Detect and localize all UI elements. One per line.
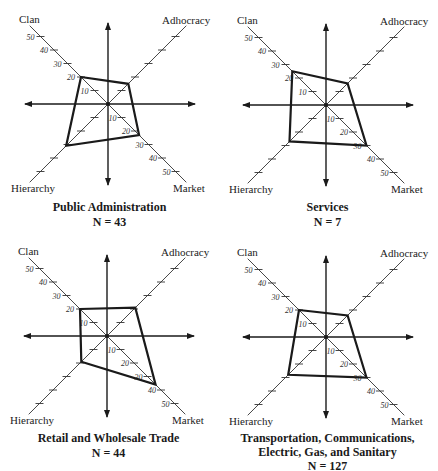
svg-text:40: 40	[258, 47, 266, 56]
svg-text:30: 30	[271, 293, 280, 302]
chart-title: Public Administration	[0, 200, 219, 214]
svg-text:30: 30	[135, 141, 144, 150]
axis-hierarchy	[248, 105, 326, 183]
svg-text:50: 50	[245, 266, 253, 275]
origin-dot	[105, 334, 109, 338]
chart-title-line-1: Transportation, Communications,	[218, 431, 437, 445]
chart-sample-size: N = 43	[0, 215, 219, 229]
svg-text:40: 40	[367, 155, 375, 164]
axis-clan	[30, 26, 108, 104]
svg-text:40: 40	[148, 386, 156, 395]
svg-text:20: 20	[122, 127, 130, 136]
axis-market	[108, 104, 186, 182]
axis-label-adhocracy: Adhocracy	[162, 15, 210, 26]
svg-text:20: 20	[285, 306, 293, 315]
axis-hierarchy	[29, 336, 107, 414]
chart-public-administration: 10102020303040405050 Clan Adhocracy Hier…	[0, 0, 219, 238]
origin-dot	[324, 335, 328, 339]
origin-dot	[106, 102, 110, 106]
svg-text:50: 50	[381, 401, 389, 410]
axis-label-market: Market	[173, 183, 205, 194]
axis-adhocracy	[326, 259, 404, 337]
axis-label-market: Market	[391, 416, 423, 427]
axis-hierarchy	[30, 104, 108, 182]
svg-text:50: 50	[163, 168, 171, 177]
svg-text:10: 10	[81, 87, 89, 96]
axis-label-hierarchy: Hierarchy	[10, 415, 54, 426]
svg-text:40: 40	[149, 154, 157, 163]
axis-label-adhocracy: Adhocracy	[380, 248, 428, 259]
svg-text:30: 30	[52, 292, 61, 301]
svg-text:10: 10	[327, 115, 335, 124]
svg-text:10: 10	[108, 346, 116, 355]
axis-label-hierarchy: Hierarchy	[11, 183, 55, 194]
chart-sample-size: N = 44	[0, 446, 218, 460]
chart-sample-size: N = 127	[218, 459, 437, 471]
axis-label-hierarchy: Hierarchy	[229, 184, 273, 195]
chart-transportation-communications-utilities: 10102020303040405050 Clan Adhocracy Hier…	[218, 233, 437, 471]
chart-retail-wholesale-trade: 10102020303040405050 Clan Adhocracy Hier…	[0, 232, 218, 470]
svg-text:20: 20	[340, 360, 348, 369]
svg-text:50: 50	[245, 34, 253, 43]
axis-label-clan: Clan	[19, 14, 40, 25]
svg-text:20: 20	[66, 305, 74, 314]
svg-text:50: 50	[381, 169, 389, 178]
chart-sample-size: N = 7	[218, 215, 437, 229]
svg-text:10: 10	[327, 347, 335, 356]
svg-text:40: 40	[367, 387, 375, 396]
svg-text:40: 40	[39, 278, 47, 287]
svg-text:40: 40	[258, 279, 266, 288]
axis-adhocracy	[107, 258, 185, 336]
axis-label-adhocracy: Adhocracy	[380, 16, 428, 27]
svg-text:20: 20	[121, 359, 129, 368]
axis-adhocracy	[108, 26, 186, 104]
chart-title: Retail and Wholesale Trade	[0, 431, 218, 445]
svg-text:10: 10	[299, 320, 307, 329]
svg-text:50: 50	[27, 33, 35, 42]
axis-label-market: Market	[172, 415, 204, 426]
svg-text:50: 50	[162, 400, 170, 409]
svg-text:30: 30	[271, 61, 280, 70]
chart-title-line-2: Electric, Gas, and Sanitary	[218, 445, 437, 459]
svg-text:40: 40	[40, 46, 48, 55]
svg-text:20: 20	[340, 128, 348, 137]
chart-title: Services	[218, 200, 437, 214]
axis-adhocracy	[326, 27, 404, 105]
svg-text:10: 10	[299, 88, 307, 97]
svg-text:50: 50	[26, 265, 34, 274]
axis-label-adhocracy: Adhocracy	[161, 247, 209, 258]
chart-services: 10102020303040405050 Clan Adhocracy Hier…	[218, 1, 437, 239]
svg-text:10: 10	[109, 114, 117, 123]
axis-label-hierarchy: Hierarchy	[229, 416, 273, 427]
axis-label-clan: Clan	[237, 247, 258, 258]
axis-label-clan: Clan	[237, 15, 258, 26]
axis-clan	[248, 259, 326, 337]
svg-text:30: 30	[53, 60, 62, 69]
axis-clan	[248, 27, 326, 105]
svg-text:20: 20	[67, 73, 75, 82]
axis-clan	[29, 258, 107, 336]
axis-label-market: Market	[391, 184, 423, 195]
axis-label-clan: Clan	[18, 246, 39, 257]
origin-dot	[324, 103, 328, 107]
